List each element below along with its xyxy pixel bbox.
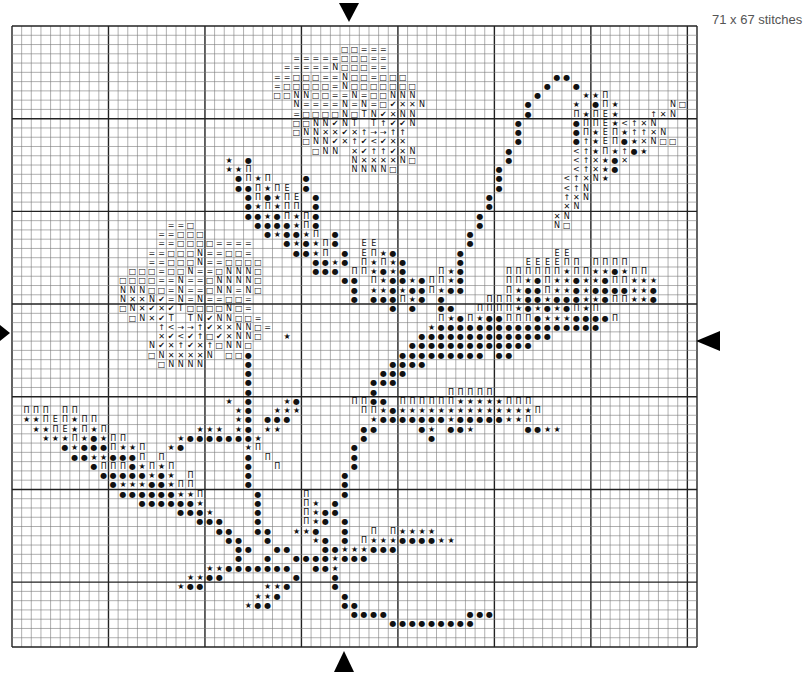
- stitch-symbol: Π: [429, 286, 435, 295]
- stitch-symbol: ●: [612, 156, 619, 165]
- stitch-symbol: N: [178, 360, 184, 369]
- stitch-symbol: ★: [592, 295, 599, 304]
- stitch-symbol: □: [187, 239, 195, 248]
- stitch-symbol: ✔: [342, 128, 349, 137]
- stitch-symbol: ●: [428, 536, 435, 545]
- stitch-symbol: =: [370, 54, 377, 63]
- stitch-symbol: Π: [487, 388, 493, 397]
- stitch-symbol: □: [187, 221, 195, 230]
- stitch-symbol: N: [409, 91, 415, 100]
- stitch-symbol: Π: [602, 91, 608, 100]
- stitch-symbol: =: [284, 63, 291, 72]
- stitch-symbol: □: [119, 276, 127, 285]
- stitch-symbol: ★: [274, 582, 281, 591]
- stitch-symbol: ★: [505, 415, 512, 424]
- stitch-symbol: ★: [274, 425, 281, 434]
- stitch-symbol: ●: [573, 286, 580, 295]
- stitch-symbol: □: [235, 258, 243, 267]
- stitch-symbol: ●: [255, 490, 262, 499]
- stitch-symbol: N: [313, 137, 319, 146]
- stitch-symbol: Π: [303, 490, 309, 499]
- stitch-symbol: ●: [303, 174, 310, 183]
- stitch-symbol: ●: [419, 425, 426, 434]
- stitch-symbol: □: [409, 82, 417, 91]
- stitch-symbol: E: [603, 110, 608, 119]
- stitch-symbol: ●: [341, 536, 348, 545]
- stitch-symbol: N: [120, 286, 126, 295]
- stitch-symbol: ●: [592, 286, 599, 295]
- stitch-symbol: N: [352, 91, 358, 100]
- stitch-symbol: ●: [255, 601, 262, 610]
- stitch-symbol: ●: [467, 351, 474, 360]
- stitch-symbol: □: [409, 156, 417, 165]
- stitch-symbol: ✔: [390, 100, 397, 109]
- stitch-symbol: ●: [100, 443, 107, 452]
- stitch-symbol: ●: [332, 545, 339, 554]
- stitch-symbol: ●: [312, 554, 319, 563]
- stitch-symbol: ●: [197, 434, 204, 443]
- stitch-symbol: □: [119, 304, 127, 313]
- stitch-symbol: ★: [447, 406, 454, 415]
- stitch-symbol: N: [342, 100, 348, 109]
- stitch-symbol: N: [332, 147, 338, 156]
- stitch-symbol: =: [380, 45, 387, 54]
- stitch-symbol: □: [235, 314, 243, 323]
- stitch-symbol: ●: [351, 276, 358, 285]
- stitch-symbol: ●: [322, 258, 329, 267]
- stitch-symbol: ●: [264, 536, 271, 545]
- stitch-symbol: □: [303, 137, 311, 146]
- stitch-symbol: ●: [139, 499, 146, 508]
- stitch-symbol: ●: [476, 610, 483, 619]
- stitch-symbol: =: [264, 323, 271, 332]
- stitch-symbol: ●: [583, 323, 590, 332]
- stitch-symbol: E: [371, 239, 376, 248]
- stitch-symbol: ★: [148, 471, 155, 480]
- stitch-symbol: ●: [457, 415, 464, 424]
- stitch-symbol: =: [303, 63, 310, 72]
- stitch-symbol: ★: [370, 258, 377, 267]
- stitch-symbol: ★: [254, 592, 261, 601]
- stitch-symbol: N: [178, 276, 184, 285]
- stitch-symbol: =: [168, 239, 175, 248]
- stitch-symbol: ●: [438, 304, 445, 313]
- stitch-symbol: ●: [563, 73, 570, 82]
- stitch-symbol: ●: [187, 508, 194, 517]
- stitch-symbol: ●: [245, 360, 252, 369]
- stitch-symbol: <: [563, 184, 570, 193]
- stitch-symbol: Π: [438, 314, 444, 323]
- stitch-symbol: Π: [496, 295, 502, 304]
- stitch-symbol: ✕: [380, 156, 387, 165]
- stitch-symbol: ★: [534, 304, 541, 313]
- stitch-symbol: Π: [544, 267, 550, 276]
- stitch-symbol: ●: [303, 249, 310, 258]
- stitch-symbol: □: [177, 267, 185, 276]
- stitch-symbol: N: [207, 351, 213, 360]
- stitch-symbol: Π: [23, 406, 29, 415]
- stitch-symbol: ★: [447, 267, 454, 276]
- stitch-symbol: ●: [255, 517, 262, 526]
- stitch-symbol: ●: [187, 434, 194, 443]
- stitch-symbol: =: [380, 54, 387, 63]
- stitch-symbol: N: [361, 100, 367, 109]
- stitch-symbol: N: [226, 304, 232, 313]
- stitch-symbol: □: [380, 73, 388, 82]
- stitch-symbol: ●: [148, 499, 155, 508]
- stitch-symbol: ★: [361, 545, 368, 554]
- stitch-symbol: N: [352, 165, 358, 174]
- stitch-symbol: =: [322, 63, 329, 72]
- stitch-symbol: ●: [573, 82, 580, 91]
- stitch-symbol: Π: [641, 267, 647, 276]
- stitch-symbol: Π: [612, 295, 618, 304]
- stitch-symbol: E: [603, 119, 608, 128]
- stitch-symbol: ★: [33, 415, 40, 424]
- stitch-symbol: Π: [178, 480, 184, 489]
- stitch-symbol: ★: [573, 100, 580, 109]
- stitch-symbol: <: [573, 147, 580, 156]
- stitch-symbol: ●: [341, 517, 348, 526]
- stitch-symbol: ★: [312, 239, 319, 248]
- stitch-symbol: Π: [371, 249, 377, 258]
- stitch-symbol: =: [149, 258, 156, 267]
- stitch-symbol: ●: [245, 471, 252, 480]
- stitch-symbol: ★: [81, 434, 88, 443]
- stitch-symbol: ●: [496, 341, 503, 350]
